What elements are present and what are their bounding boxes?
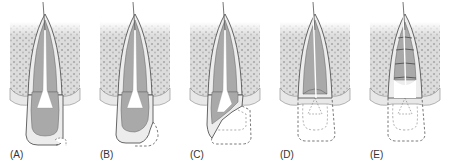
panel-b: (B) <box>90 0 180 166</box>
tooth-diagram-b <box>90 0 180 166</box>
panel-d: (D) <box>270 0 360 166</box>
panel-e: (E) <box>360 0 450 166</box>
panel-label-c: (C) <box>190 149 204 160</box>
tooth-diagram-c <box>180 0 270 166</box>
panel-label-a: (A) <box>10 149 23 160</box>
panel-a: (A) <box>0 0 90 166</box>
tooth-diagram-d <box>270 0 360 166</box>
panel-c: (C) <box>180 0 270 166</box>
tooth-diagram-a <box>0 0 90 166</box>
panel-label-b: (B) <box>100 149 113 160</box>
panel-label-e: (E) <box>370 149 383 160</box>
panel-label-d: (D) <box>280 149 294 160</box>
tooth-diagram-e <box>360 0 450 166</box>
